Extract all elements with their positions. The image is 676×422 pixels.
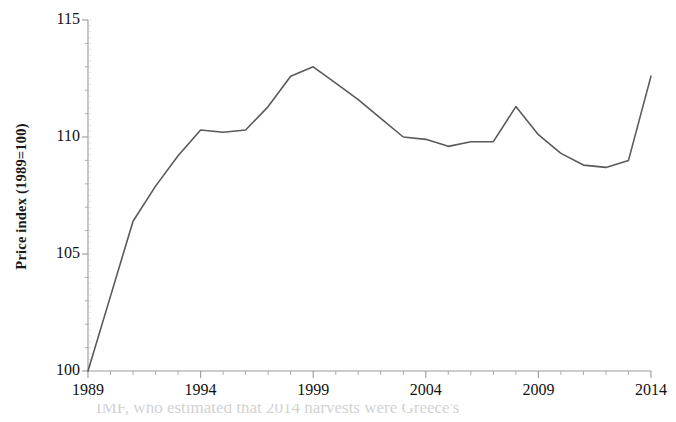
data-series-line (88, 67, 651, 371)
line-chart-plot (0, 0, 676, 422)
chart-figure: Price index (1989=100) 100105110115 1989… (0, 0, 676, 422)
